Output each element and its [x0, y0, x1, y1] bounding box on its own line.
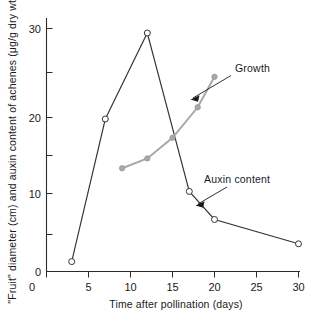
- growth-line: [122, 77, 214, 169]
- y-axis-tick-labels: 0 10 20 30: [29, 23, 41, 278]
- annotation-growth: Growth: [191, 62, 271, 102]
- annotation-growth-arrowhead: [191, 95, 200, 102]
- auxin-point: [186, 188, 192, 194]
- auxin-point: [102, 116, 108, 122]
- x-tick-label-0: 0: [29, 281, 35, 293]
- x-tick-label-25: 25: [250, 281, 262, 293]
- y-tick-label-20: 20: [29, 112, 41, 124]
- y-axis-ticks: [47, 29, 53, 272]
- x-tick-label-10: 10: [124, 281, 136, 293]
- x-tick-label-5: 5: [85, 281, 91, 293]
- annotation-auxin-arrowhead: [196, 201, 205, 208]
- annotation-auxin-arrow: [198, 187, 227, 204]
- annotation-growth-label: Growth: [235, 62, 270, 74]
- x-axis-tick-labels: 0 5 10 15 20 25 30: [29, 281, 305, 293]
- line-chart: 0 10 20 30 0 5 10 15 20 25 30 Time after…: [0, 0, 314, 323]
- y-tick-label-0: 0: [35, 266, 41, 278]
- auxin-point: [212, 217, 218, 223]
- x-tick-label-30: 30: [292, 281, 304, 293]
- growth-point: [195, 105, 200, 110]
- growth-point: [212, 74, 217, 79]
- auxin-point: [144, 30, 150, 36]
- x-tick-label-15: 15: [166, 281, 178, 293]
- x-tick-label-20: 20: [208, 281, 220, 293]
- growth-point: [119, 166, 124, 171]
- y-tick-label-10: 10: [29, 188, 41, 200]
- series-growth: [119, 74, 217, 171]
- y-axis-title: "Fruit" diameter (cm) and auxin content …: [6, 0, 18, 304]
- auxin-point: [69, 259, 75, 265]
- x-axis-ticks: [47, 272, 299, 278]
- annotation-growth-arrow: [193, 76, 231, 99]
- annotation-auxin-label: Auxin content: [204, 173, 270, 185]
- chart-figure: 0 10 20 30 0 5 10 15 20 25 30 Time after…: [0, 0, 314, 323]
- annotation-auxin-content: Auxin content: [196, 173, 271, 208]
- growth-point: [170, 135, 175, 140]
- y-tick-label-30: 30: [29, 23, 41, 35]
- auxin-point: [296, 241, 302, 247]
- growth-point: [145, 156, 150, 161]
- x-axis-title: Time after pollination (days): [109, 298, 243, 310]
